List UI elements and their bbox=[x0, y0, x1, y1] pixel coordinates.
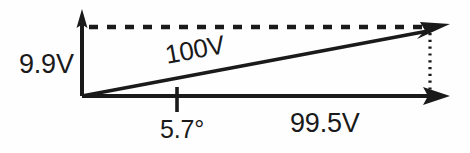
vertical-component-label: 9.9V bbox=[19, 51, 74, 78]
resultant-vector-line bbox=[82, 31, 428, 96]
vector-diagram-figure: 9.9V 100V 5.7° 99.5V bbox=[0, 0, 470, 153]
horizontal-component-label: 99.5V bbox=[290, 110, 360, 137]
angle-label: 5.7° bbox=[160, 117, 204, 142]
